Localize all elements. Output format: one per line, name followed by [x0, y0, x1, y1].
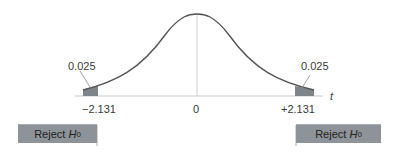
reject-region-right: Reject H0 [296, 124, 381, 143]
density-curve [83, 14, 314, 90]
reject-var: H [349, 128, 357, 140]
left-leader [80, 71, 90, 87]
reject-sub: 0 [76, 130, 80, 139]
right-critical-tick: +2.131 [281, 103, 315, 115]
right-leader [302, 75, 310, 88]
left-area-label: 0.025 [68, 60, 96, 72]
left-critical-tick: −2.131 [82, 103, 116, 115]
right-area-label: 0.025 [301, 60, 329, 72]
reject-text: Reject [315, 128, 346, 140]
reject-sub: 0 [357, 130, 361, 139]
axis-variable-label: t [330, 90, 333, 102]
center-tick: 0 [193, 103, 199, 115]
reject-text: Reject [34, 128, 65, 140]
reject-var: H [68, 128, 76, 140]
reject-region-left: Reject H0 [18, 124, 97, 143]
